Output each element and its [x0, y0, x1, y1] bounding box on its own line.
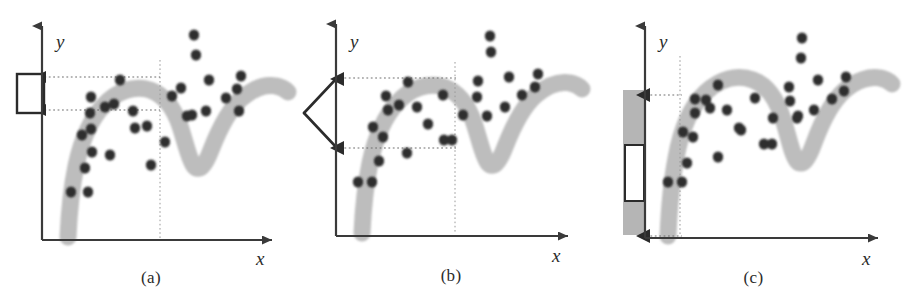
panel-a: y x (a): [0, 0, 302, 306]
panel-c-caption: (c): [600, 268, 907, 288]
y-range-inner-rectangle: [625, 145, 644, 201]
panel-c-plot: y x: [600, 0, 907, 306]
panel-b: y x (b): [300, 0, 602, 306]
x-axis-label: x: [255, 248, 265, 269]
y-interval-wedge: [304, 79, 336, 147]
y-axis-label: y: [54, 31, 65, 52]
panel-b-plot: y x: [300, 0, 602, 306]
y-interval-rectangle: [17, 74, 44, 113]
panel-a-plot: y x: [0, 0, 302, 306]
panel-b-caption: (b): [300, 266, 602, 286]
x-axis-label: x: [551, 245, 561, 266]
figure-container: y x (a): [0, 0, 907, 306]
panel-a-caption: (a): [0, 268, 302, 288]
y-axis-label: y: [657, 31, 668, 52]
x-axis-label: x: [861, 248, 871, 269]
y-axis-label: y: [348, 31, 359, 52]
panel-c: y x (c): [600, 0, 907, 306]
